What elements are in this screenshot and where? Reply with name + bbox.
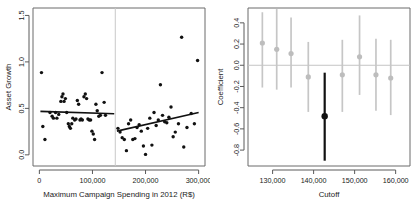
scatter-point: [57, 113, 60, 116]
x-tick-label: 300,000: [186, 176, 210, 185]
scatter-point: [102, 101, 105, 104]
scatter-point: [64, 97, 67, 100]
scatter-point: [185, 126, 188, 129]
left-y-axis-title: Asset Growth: [4, 64, 13, 111]
estimate-dot: [288, 51, 293, 56]
x-tick-label: 150,000: [342, 176, 368, 185]
y-tick-label: -0.8: [232, 144, 241, 156]
estimate-dot-highlighted: [321, 113, 327, 119]
scatter-point: [74, 117, 77, 120]
scatter-point: [61, 92, 64, 95]
estimate-dot: [306, 74, 311, 79]
y-tick-label: 1.0: [17, 57, 26, 67]
scatter-point: [146, 127, 149, 130]
scatter-point: [193, 122, 196, 125]
scatter-point: [84, 92, 87, 95]
estimate-dot: [388, 75, 393, 80]
left-x-axis-title: Maximum Campaign Spending in 2012 (R$): [43, 190, 195, 199]
scatter-point: [69, 127, 72, 130]
panel-scatter-rd: 0100,000200,000300,000 0.00.51.01.5 Maxi…: [0, 0, 210, 209]
x-tick-label: 140,000: [301, 176, 327, 185]
scatter-point: [93, 138, 96, 141]
figure-container: 0100,000200,000300,000 0.00.51.01.5 Maxi…: [0, 0, 419, 209]
scatter-point: [196, 59, 199, 62]
scatter-point: [41, 125, 44, 128]
scatter-point: [70, 122, 73, 125]
panel-sensitivity: 130,000140,000150,000160,000 0.40.20.0-0…: [210, 0, 419, 209]
scatter-point: [171, 135, 174, 138]
scatter-point: [96, 109, 99, 112]
scatter-point: [59, 100, 62, 103]
right-y-axis-title: Coefficient: [216, 68, 225, 106]
y-tick-label: 0.5: [17, 103, 26, 113]
estimate-dot: [340, 72, 345, 77]
y-tick-label: -0.4: [232, 101, 241, 113]
scatter-point: [100, 71, 103, 74]
scatter-point: [148, 116, 151, 119]
scatter-point: [154, 124, 157, 127]
scatter-point: [140, 129, 143, 132]
scatter-point: [123, 138, 126, 141]
right-x-axis-title: Cutoff: [319, 190, 340, 199]
y-tick-label: 0.2: [232, 39, 241, 49]
right-plot-frame: [248, 8, 410, 166]
scatter-point: [125, 149, 128, 152]
scatter-point: [152, 111, 155, 114]
scatter-point: [43, 138, 46, 141]
scatter-point: [89, 118, 92, 121]
x-tick-label: 0: [37, 176, 41, 185]
x-tick-label: 200,000: [133, 176, 159, 185]
scatter-point: [177, 122, 180, 125]
scatter-point: [169, 105, 172, 108]
scatter-point: [116, 127, 119, 130]
estimate-dot: [357, 54, 362, 59]
estimate-dot: [260, 40, 265, 45]
confidence-interval-bars: [262, 9, 390, 161]
scatter-point: [92, 132, 95, 135]
scatter-point: [174, 130, 177, 133]
scatter-rd-svg: 0100,000200,000300,000 0.00.51.01.5 Maxi…: [0, 0, 210, 209]
estimate-dot: [373, 72, 378, 77]
right-y-axis-ticks: 0.40.20.0-0.2-0.4-0.6-0.8: [232, 18, 244, 156]
scatter-point: [129, 118, 132, 121]
x-tick-label: 160,000: [383, 176, 409, 185]
left-plot-frame: [33, 8, 205, 166]
scatter-point: [133, 137, 136, 140]
left-y-axis-ticks: 0.00.51.01.5: [17, 10, 29, 159]
scatter-point: [81, 118, 84, 121]
scatter-point: [161, 114, 164, 117]
scatter-point: [52, 116, 55, 119]
y-tick-label: -0.6: [232, 123, 241, 135]
x-tick-label: 130,000: [260, 176, 286, 185]
scatter-point: [165, 121, 168, 124]
scatter-point: [127, 122, 130, 125]
scatter-point: [159, 83, 162, 86]
y-tick-label: 1.5: [17, 10, 26, 20]
scatter-points: [40, 36, 199, 157]
scatter-point: [55, 116, 58, 119]
y-tick-label: 0.4: [232, 18, 241, 28]
scatter-point: [182, 145, 185, 148]
scatter-point: [144, 153, 147, 156]
scatter-point: [77, 102, 80, 105]
scatter-point: [76, 99, 79, 102]
sensitivity-svg: 130,000140,000150,000160,000 0.40.20.0-0…: [210, 0, 419, 209]
coefficient-estimate-dots: [260, 40, 394, 119]
scatter-point: [142, 144, 145, 147]
y-tick-label: 0.0: [232, 60, 241, 70]
estimate-dot: [274, 47, 279, 52]
scatter-point: [94, 102, 97, 105]
y-tick-label: -0.2: [232, 80, 241, 92]
scatter-point: [150, 143, 153, 146]
left-x-axis-ticks: 0100,000200,000300,000: [37, 170, 210, 185]
right-x-axis-ticks: 130,000140,000150,000160,000: [260, 170, 409, 185]
scatter-point: [180, 36, 183, 39]
scatter-point: [99, 114, 102, 117]
x-tick-label: 100,000: [79, 176, 105, 185]
scatter-point: [85, 97, 88, 100]
scatter-point: [40, 71, 43, 74]
y-tick-label: 0.0: [17, 150, 26, 160]
